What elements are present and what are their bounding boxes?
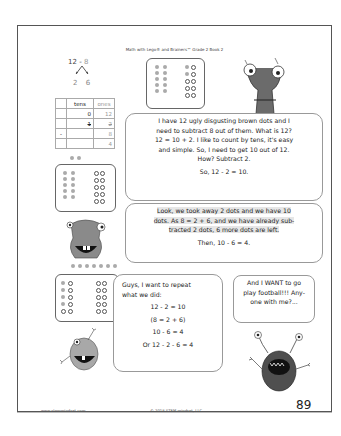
empty-dot: [191, 86, 196, 91]
dot-grid-right: [96, 281, 106, 314]
filled-dot: [155, 71, 159, 75]
dot-box-3: [55, 274, 119, 322]
speech-bubble-3: Guys, I want to repeat what we did: 12 -…: [113, 274, 223, 372]
empty-dot: [191, 79, 196, 84]
filled-dot: [71, 171, 75, 175]
empty-dot: [94, 178, 99, 183]
empty-dot: [96, 302, 101, 307]
bubble-conclusion: So, 12 - 2 = 10.: [126, 167, 322, 177]
part-1: 2: [73, 79, 77, 87]
monster-arms-up-icon: [240, 56, 288, 118]
summary-step: (8 = 2 + 6): [122, 315, 214, 325]
bubble-line: 12 = 10 + 2. I like to count by tens, it…: [126, 135, 322, 145]
empty-dot: [185, 93, 190, 98]
header-tens: tens: [67, 99, 94, 109]
empty-dot: [68, 281, 73, 286]
empty-dot: [94, 185, 99, 190]
dot: [99, 264, 103, 268]
empty-dot: [102, 288, 107, 293]
footer-copyright: © 2018 STEM mindset, LLC: [150, 408, 202, 413]
bubble-line: and simple. So, I need to get 10 out of …: [126, 145, 322, 155]
dot: [71, 264, 75, 268]
dot-grid-left: [155, 65, 167, 93]
minuend: 12: [68, 58, 77, 66]
empty-dot: [94, 199, 99, 204]
empty-dot: [94, 171, 99, 176]
place-value-table: tens ones 0 12 1 2 - 8 4: [55, 98, 115, 149]
summary-step: 10 - 6 = 4: [122, 327, 214, 337]
filled-dot: [155, 77, 159, 81]
speech-bubble-2: Look, we took away 2 dots and we have 10…: [125, 203, 323, 263]
monster-waving-icon: [58, 326, 110, 374]
empty-dot: [68, 288, 73, 293]
empty-dot: [100, 185, 105, 190]
empty-dot: [100, 178, 105, 183]
table-row: - 8: [56, 129, 115, 139]
speech-bubble-4: And I WANT to go play football!!! Any- o…: [233, 275, 315, 323]
bubble-line: Look, we took away 2 dots and we have 10: [126, 206, 322, 216]
empty-dot: [100, 171, 105, 176]
bubble-line: I have 12 ugly disgusting brown dots and…: [126, 116, 322, 126]
highlighted-text: tracted 2 dots, 6 more dots are left.: [169, 226, 280, 233]
dot: [92, 264, 96, 268]
empty-dot: [96, 295, 101, 300]
empty-dot: [102, 309, 107, 314]
monster-screaming-icon: [244, 331, 314, 393]
filled-dot: [155, 89, 159, 93]
empty-dot: [61, 309, 66, 314]
dot-grid-right: [94, 171, 104, 204]
empty-dot: [102, 281, 107, 286]
speech-bubble-1: I have 12 ugly disgusting brown dots and…: [125, 113, 323, 201]
dot-box-1: [146, 58, 205, 109]
filled-dot: [61, 302, 65, 306]
dot: [106, 264, 110, 268]
filled-dot: [61, 288, 65, 292]
empty-dot: [191, 93, 196, 98]
empty-dot: [185, 79, 190, 84]
empty-dot: [94, 192, 99, 197]
filled-dot: [61, 295, 65, 299]
scattered-dots: [71, 264, 117, 268]
bubble-line: play football!!! Any-: [234, 288, 314, 298]
dot-grid-left: [63, 171, 75, 199]
empty-dot: [68, 309, 73, 314]
filled-dot: [185, 72, 189, 76]
bubble-line: How? Subtract 2.: [126, 154, 322, 164]
filled-dot: [63, 195, 67, 199]
bubble-line: need to subtract 8 out of them. What is …: [126, 126, 322, 136]
filled-dot: [71, 183, 75, 187]
summary-step: Or 12 - 2 - 6 = 4: [122, 340, 214, 350]
filled-dot: [71, 195, 75, 199]
subtrahend: 8: [84, 58, 88, 66]
empty-dot: [191, 65, 196, 70]
empty-dot: [96, 309, 101, 314]
empty-dot: [191, 72, 196, 77]
bubble-line: one with me?...: [234, 297, 314, 307]
operator: -: [77, 58, 84, 66]
filled-dot: [163, 65, 167, 69]
filled-dot: [63, 183, 67, 187]
filled-dot: [155, 65, 159, 69]
part-2: 6: [86, 79, 90, 87]
page-number: 89: [296, 398, 311, 412]
filled-dot: [155, 83, 159, 87]
empty-dot: [185, 86, 190, 91]
empty-dot: [96, 288, 101, 293]
decomposition-parts: 2 6: [73, 79, 90, 87]
dot: [78, 264, 82, 268]
bubble-line: tracted 2 dots, 6 more dots are left.: [126, 225, 322, 235]
empty-dot: [100, 199, 105, 204]
dot: [113, 264, 117, 268]
removed-dots-pair: [70, 156, 81, 160]
filled-dot: [63, 189, 67, 193]
empty-dot: [68, 302, 73, 307]
dot: [77, 156, 81, 160]
table-row: 4: [56, 139, 115, 149]
dot-grid-right: [185, 65, 195, 98]
bubble-line: And I WANT to go: [234, 278, 314, 288]
dot: [85, 264, 89, 268]
empty-dot: [102, 295, 107, 300]
empty-dot: [96, 281, 101, 286]
filled-dot: [163, 71, 167, 75]
empty-dot: [102, 302, 107, 307]
